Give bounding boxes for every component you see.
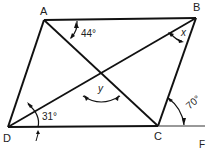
angle-label-c-exterior: 70° bbox=[184, 93, 203, 111]
vertex-label-a: A bbox=[40, 5, 48, 17]
side-ab bbox=[44, 18, 196, 20]
caption-fragment: F bbox=[199, 139, 205, 150]
angle-label-b: x bbox=[180, 27, 187, 38]
angle-label-a: 44° bbox=[81, 28, 96, 39]
angle-arc-center bbox=[83, 96, 120, 102]
arrowhead-a bbox=[74, 22, 79, 28]
parallelogram-diagram: A B C D 44° x 31° y 70° F bbox=[0, 0, 208, 150]
side-cd bbox=[8, 126, 158, 127]
angle-arc-c-exterior bbox=[168, 98, 184, 125]
diagonal-bd bbox=[8, 18, 196, 127]
angle-label-center: y bbox=[97, 83, 104, 94]
diagonals bbox=[8, 18, 196, 127]
vertex-label-c: C bbox=[154, 130, 162, 142]
side-da bbox=[8, 20, 44, 127]
vertex-label-d: D bbox=[3, 132, 11, 144]
tick-d bbox=[36, 134, 38, 141]
angle-label-d: 31° bbox=[42, 111, 57, 122]
vertex-label-b: B bbox=[193, 1, 200, 13]
